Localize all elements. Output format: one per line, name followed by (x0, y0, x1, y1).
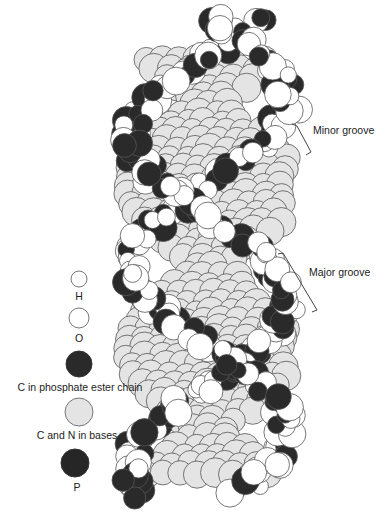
legend-label-phosphate-carbon: C in phosphate ester chain (18, 381, 143, 393)
legend-label-h: H (75, 290, 83, 302)
atom-sphere-icon (216, 355, 237, 376)
atom-sphere-icon (252, 9, 270, 27)
dna-diagram: Minor groove Major groove H O C in phosp… (0, 0, 390, 514)
atom-sphere-icon (199, 380, 223, 404)
legend-label-o: O (75, 332, 83, 344)
oxygen-swatch-icon (69, 308, 89, 328)
atom-sphere-icon (249, 382, 268, 401)
atom-sphere-icon (200, 51, 217, 68)
minor-groove-label: Minor groove (313, 124, 374, 136)
atom-sphere-icon (266, 384, 292, 410)
atom-sphere-icon (265, 81, 292, 108)
atom-sphere-icon (265, 452, 289, 476)
atom-sphere-icon (249, 47, 268, 66)
phosphate-carbon-swatch-icon (66, 351, 92, 377)
atom-sphere-icon (257, 242, 276, 261)
legend-label-base-atoms: C and N in bases (37, 429, 118, 441)
atom-sphere-icon (213, 158, 239, 184)
base-atom-swatch-icon (65, 398, 93, 426)
atom-sphere-icon (207, 16, 232, 41)
atom-sphere-icon (158, 208, 176, 226)
atom-sphere-icon (281, 272, 302, 293)
atom-sphere-icon (160, 176, 180, 196)
atom-sphere-icon (165, 399, 192, 426)
legend-label-p: P (73, 481, 80, 493)
major-groove-label: Major groove (309, 266, 370, 278)
atom-sphere-icon (187, 333, 213, 359)
atom-sphere-icon (162, 67, 190, 95)
atom-sphere-icon (243, 142, 264, 163)
atom-sphere-icon (280, 67, 296, 83)
phosphorus-swatch-icon (61, 449, 89, 477)
atom-sphere-icon (214, 221, 236, 243)
atom-sphere-icon (241, 460, 267, 486)
hydrogen-swatch-icon (71, 271, 87, 287)
atom-sphere-icon (247, 329, 271, 353)
